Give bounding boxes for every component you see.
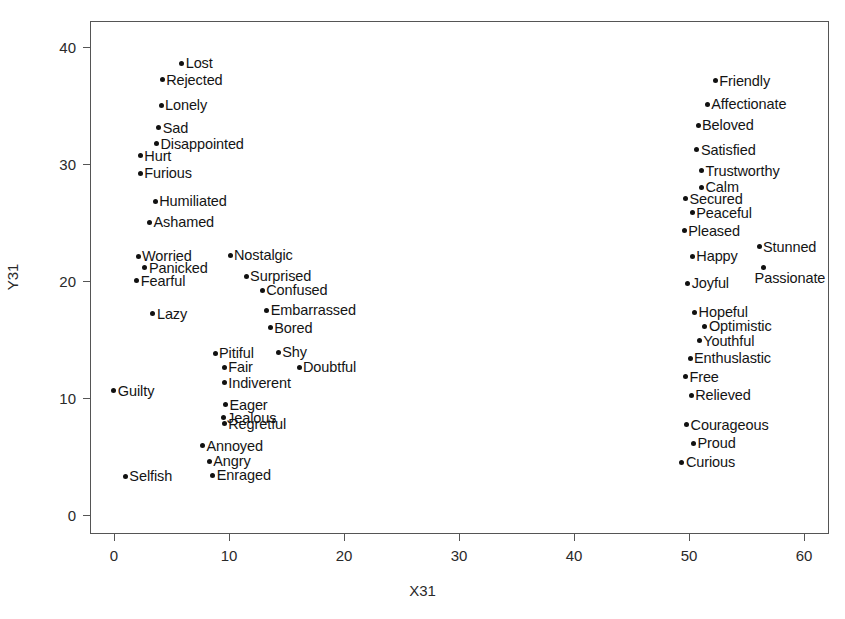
y-tick-label: 10 bbox=[59, 390, 76, 407]
data-point-label: Beloved bbox=[702, 118, 754, 133]
data-point bbox=[222, 365, 227, 370]
data-point-label: Nostalgic bbox=[234, 248, 293, 263]
data-point-label: Optimistic bbox=[709, 319, 772, 334]
data-point bbox=[159, 103, 164, 108]
data-point bbox=[682, 228, 687, 233]
data-point bbox=[705, 102, 710, 107]
data-point bbox=[156, 125, 161, 130]
data-point bbox=[160, 77, 165, 82]
data-point bbox=[147, 220, 152, 225]
data-point bbox=[684, 422, 689, 427]
data-point-label: Humiliated bbox=[159, 194, 227, 209]
data-point-label: Pleased bbox=[688, 224, 740, 239]
x-tick-label: 10 bbox=[221, 547, 238, 564]
data-point-label: Trustworthy bbox=[706, 164, 780, 179]
data-point bbox=[702, 324, 707, 329]
data-point-label: Annoyed bbox=[206, 439, 263, 454]
data-point-label: Lonely bbox=[165, 98, 207, 113]
data-point-label: Shy bbox=[282, 345, 307, 360]
data-point bbox=[260, 288, 265, 293]
y-tick-mark bbox=[83, 281, 90, 282]
data-point bbox=[111, 388, 116, 393]
data-point-label: Disappointed bbox=[160, 137, 243, 152]
data-point-label: Curious bbox=[686, 455, 735, 470]
data-point-label: Satisfied bbox=[701, 143, 756, 158]
y-tick-label: 20 bbox=[59, 273, 76, 290]
y-tick-mark bbox=[83, 515, 90, 516]
data-point bbox=[691, 441, 696, 446]
x-tick-label: 30 bbox=[451, 547, 468, 564]
data-point-label: Furious bbox=[144, 166, 192, 181]
data-point bbox=[699, 185, 704, 190]
data-point-label: Happy bbox=[696, 249, 737, 264]
data-point bbox=[696, 123, 701, 128]
data-point-label: Sad bbox=[163, 121, 189, 136]
data-point bbox=[223, 402, 228, 407]
data-point-label: Lost bbox=[186, 56, 213, 71]
data-point-label: Hurt bbox=[144, 149, 171, 164]
x-tick-label: 50 bbox=[681, 547, 698, 564]
x-tick-mark bbox=[574, 534, 575, 541]
y-tick-mark bbox=[83, 47, 90, 48]
data-point bbox=[213, 351, 218, 356]
data-point bbox=[689, 393, 694, 398]
data-point-label: Rejected bbox=[166, 73, 222, 88]
data-point bbox=[244, 274, 249, 279]
data-point bbox=[136, 254, 141, 259]
data-point bbox=[264, 308, 269, 313]
data-point bbox=[268, 325, 273, 330]
data-point-label: Selfish bbox=[129, 469, 172, 484]
data-point-label: Joyful bbox=[692, 276, 729, 291]
data-point-label: Relieved bbox=[695, 388, 751, 403]
data-point bbox=[690, 254, 695, 259]
x-tick-mark bbox=[344, 534, 345, 541]
x-tick-mark bbox=[459, 534, 460, 541]
data-point-label: Friendly bbox=[719, 74, 770, 89]
y-tick-mark bbox=[83, 398, 90, 399]
data-point bbox=[207, 459, 212, 464]
data-point bbox=[679, 460, 684, 465]
data-point-label: Confused bbox=[266, 283, 327, 298]
data-point-label: Peaceful bbox=[696, 206, 752, 221]
data-point bbox=[200, 443, 205, 448]
data-point bbox=[683, 374, 688, 379]
data-point-label: Passionate bbox=[755, 271, 826, 286]
y-tick-label: 30 bbox=[59, 156, 76, 173]
x-tick-label: 0 bbox=[110, 547, 118, 564]
data-point bbox=[153, 199, 158, 204]
data-point-label: Enthuslastic bbox=[694, 351, 771, 366]
data-point bbox=[142, 265, 147, 270]
x-tick-label: 60 bbox=[796, 547, 813, 564]
data-point-label: Stunned bbox=[763, 240, 816, 255]
data-point bbox=[228, 253, 233, 258]
data-point-label: Indiverent bbox=[228, 376, 291, 391]
data-point-label: Embarrassed bbox=[271, 303, 356, 318]
scatter-plot-figure: LostRejectedLonelySadDisappointedHurtFur… bbox=[0, 0, 845, 619]
x-tick-label: 40 bbox=[566, 547, 583, 564]
data-point bbox=[154, 141, 159, 146]
data-point-label: Doubtful bbox=[303, 360, 356, 375]
data-point-label: Guilty bbox=[118, 384, 154, 399]
data-point bbox=[757, 244, 762, 249]
data-point-label: Regretful bbox=[228, 417, 286, 432]
data-point-label: Youthful bbox=[703, 334, 754, 349]
data-point bbox=[138, 153, 143, 158]
data-point bbox=[222, 421, 227, 426]
data-point-label: Courageous bbox=[691, 418, 769, 433]
y-tick-mark bbox=[83, 164, 90, 165]
data-point-label: Free bbox=[689, 370, 718, 385]
y-tick-label: 0 bbox=[68, 507, 76, 524]
data-point-label: Lazy bbox=[157, 307, 187, 322]
data-point-label: Fair bbox=[228, 360, 253, 375]
data-point bbox=[685, 281, 690, 286]
data-point-label: Enraged bbox=[217, 468, 271, 483]
x-tick-label: 20 bbox=[336, 547, 353, 564]
x-tick-mark bbox=[804, 534, 805, 541]
data-point bbox=[690, 210, 695, 215]
data-point bbox=[297, 365, 302, 370]
data-point bbox=[713, 78, 718, 83]
data-point bbox=[697, 338, 702, 343]
data-point bbox=[692, 310, 697, 315]
y-tick-label: 40 bbox=[59, 39, 76, 56]
data-point bbox=[694, 147, 699, 152]
